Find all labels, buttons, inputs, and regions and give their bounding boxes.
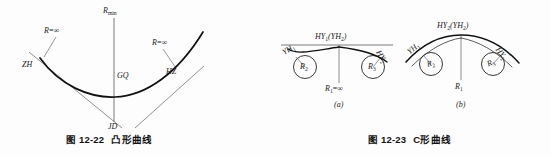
label-a-apex: HY1(YH2) <box>315 33 346 41</box>
zh-tangent-line <box>29 52 122 128</box>
convex-curve-path <box>40 32 203 97</box>
r-inf-right-leader <box>163 49 176 68</box>
subfigure-tag-a: (a) <box>334 101 343 109</box>
caption-number-left: 图 12-22 <box>66 134 104 145</box>
label-gq-point: GQ <box>117 72 129 80</box>
label-rmin: Rmin <box>103 7 117 15</box>
label-zh-point: ZH <box>22 61 32 69</box>
figure-sheet: Rmin R=∞ R=∞ ZH GQ HZ JD HY1(YH2) YH1 HY… <box>0 0 551 156</box>
label-r-infinity-right: R=∞ <box>152 39 167 47</box>
label-r-infinity-left: R=∞ <box>44 27 59 35</box>
caption-figure-12-22: 图 12-22凸形曲线 <box>66 132 152 146</box>
r-inf-left-leader <box>44 37 56 57</box>
label-a-center-radius: R1=∞ <box>325 85 343 93</box>
label-a-right-radius: R3 <box>368 63 376 71</box>
caption-number-right: 图 12-23 <box>368 134 406 145</box>
label-b-apex: HY2(YH2) <box>437 22 468 30</box>
caption-title-right: C形曲线 <box>413 134 451 145</box>
label-a-left-radius: R2 <box>300 63 308 71</box>
label-hz-point: HZ <box>166 68 176 76</box>
label-jd-point: JD <box>108 123 117 131</box>
caption-title-left: 凸形曲线 <box>111 134 152 145</box>
label-b-center-radius: R1 <box>455 83 463 91</box>
label-b-left-radius: R2 <box>426 59 435 69</box>
subfigure-tag-b: (b) <box>456 101 465 109</box>
caption-figure-12-23: 图 12-23C形曲线 <box>368 132 451 146</box>
